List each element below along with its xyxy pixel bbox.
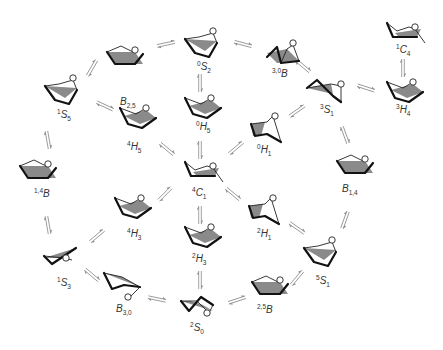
label-superscript: 1,4 [34,187,43,194]
ring-oxygen-atom [329,237,335,243]
ring-oxygen-atom [63,255,69,261]
ring-oxygen-atom [290,40,296,46]
ring-oxygen-atom [138,195,144,201]
ring-oxygen-atom [338,81,344,87]
label-subscript: 1 [268,150,272,157]
label-subscript: 4 [407,50,411,57]
label-subscript: 1 [203,193,207,200]
ring-oxygen-atom [270,195,276,201]
ring-oxygen-atom [125,294,131,300]
ring-oxygen-atom [132,47,138,53]
ring-oxygen-atom [210,163,216,169]
background [0,0,443,350]
ring-oxygen-atom [410,79,416,85]
ring-oxygen-atom [272,113,278,119]
label-subscript: 3 [67,283,71,290]
label-subscript: 5 [138,147,142,154]
ring-oxygen-atom [45,161,51,167]
label-subscript: 1,4 [349,189,358,196]
label-subscript: 0 [200,328,204,335]
ring-oxygen-atom [210,28,216,34]
label-subscript: 2,5 [127,102,136,109]
ring-oxygen-atom [204,310,210,316]
label-subscript: 3 [203,259,207,266]
label-subscript: 1 [326,281,330,288]
label-letter: B [281,68,288,79]
ring-oxygen-atom [362,156,368,162]
ring-oxygen-atom [70,75,76,81]
label-subscript: 3,0 [123,309,132,316]
label-superscript: 3,0 [272,67,281,74]
ring-oxygen-atom [412,24,418,30]
ring-oxygen-atom [208,95,214,101]
label-letter: B [266,304,273,315]
label-subscript: 5 [207,127,211,134]
label-subscript: 5 [67,115,71,122]
label-subscript: 2 [207,67,211,74]
label-subscript: 3 [138,234,142,241]
label-subscript: 1 [268,234,272,241]
conformational-itinerary-diagram: B2,50S23,0B1C41S53S13H40H54H50H11,4B4C1B… [0,0,443,350]
label-letter: B [43,188,50,199]
ring-oxygen-atom [143,105,149,111]
label-subscript: 1 [330,110,334,117]
label-subscript: 4 [407,110,411,117]
label-superscript: 2,5 [257,303,266,310]
ring-oxygen-atom [208,224,214,230]
ring-oxygen-atom [277,277,283,283]
